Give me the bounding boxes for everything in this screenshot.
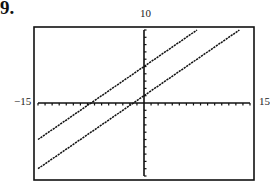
lower-line — [38, 30, 239, 169]
upper-line — [38, 30, 197, 140]
graph-window — [0, 0, 270, 182]
